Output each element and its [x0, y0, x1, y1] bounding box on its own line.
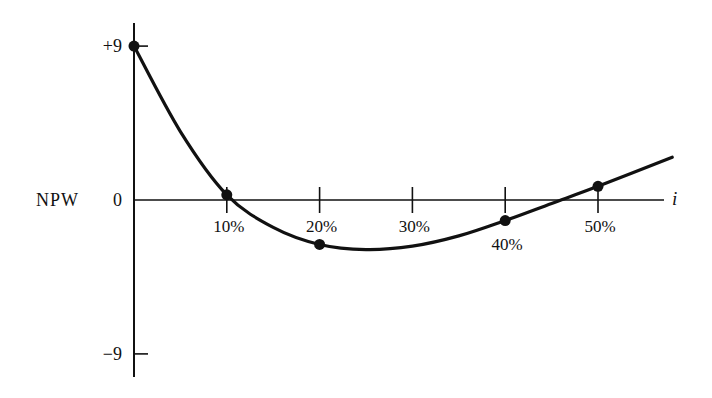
x-axis-title: i — [672, 188, 677, 209]
data-point — [500, 215, 511, 226]
data-point — [314, 239, 325, 250]
x-tick-label: 20% — [306, 217, 337, 236]
x-tick-label: 40% — [492, 235, 523, 254]
data-point — [129, 41, 140, 52]
y-tick-label: −9 — [103, 344, 122, 364]
data-point — [221, 189, 232, 200]
x-tick-label: 50% — [584, 217, 615, 236]
x-tick-label: 30% — [399, 217, 430, 236]
y-axis-title: NPW — [36, 190, 79, 210]
npw-chart: 10%20%30%40%50%+90−9NPWi — [0, 0, 712, 398]
data-points — [129, 41, 604, 250]
y-tick-label: +9 — [103, 36, 122, 56]
data-point — [593, 181, 604, 192]
y-tick-label: 0 — [113, 190, 122, 210]
x-tick-label: 10% — [213, 217, 244, 236]
axes — [134, 23, 664, 377]
